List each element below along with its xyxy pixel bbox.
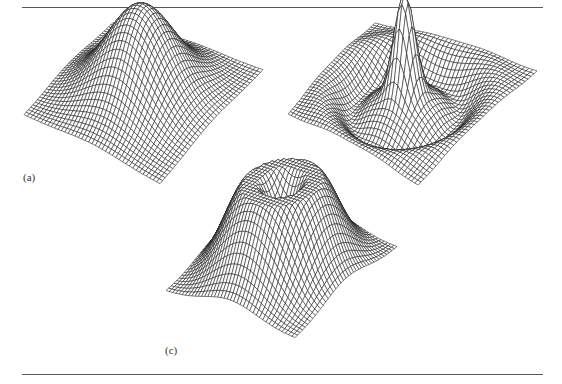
mesh-surface bbox=[166, 158, 397, 337]
ring-surface-plot bbox=[0, 0, 562, 384]
panel-label-c: (c) bbox=[165, 344, 177, 356]
